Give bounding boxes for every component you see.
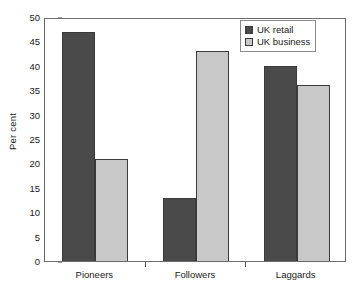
bar — [163, 198, 196, 261]
y-axis-tick-label: 25 — [29, 135, 40, 145]
x-axis-labels: PioneersFollowersLaggards — [44, 270, 346, 286]
legend-item-label: UK retail — [257, 25, 293, 35]
legend-item: UK retail — [245, 24, 310, 36]
x-axis-tick-label: Pioneers — [76, 270, 114, 280]
y-axis-tick-label: 20 — [29, 160, 40, 170]
y-axis-tick-label: 35 — [29, 86, 40, 96]
y-axis-tick-label: 40 — [29, 62, 40, 72]
y-axis-tick-label: 10 — [29, 208, 40, 218]
y-axis-tick-label: 15 — [29, 184, 40, 194]
y-axis-tick-label: 5 — [35, 233, 40, 243]
bar-group — [45, 19, 146, 261]
x-axis-tick-mark — [245, 262, 246, 267]
bar — [62, 32, 95, 261]
y-axis-tick-label: 30 — [29, 111, 40, 121]
bar — [297, 85, 330, 261]
bar-group — [246, 19, 347, 261]
x-axis-tick-mark — [145, 262, 146, 267]
y-axis-ticks: 05101520253035404550 — [18, 18, 40, 262]
y-axis-tick-label: 0 — [35, 257, 40, 267]
chart-legend: UK retail UK business — [240, 20, 316, 52]
y-axis-title-text: Per cent — [7, 113, 18, 150]
bar — [264, 66, 297, 261]
bar-group — [146, 19, 247, 261]
bar — [196, 51, 229, 261]
y-axis-tick-label: 45 — [29, 38, 40, 48]
legend-item: UK business — [245, 36, 310, 48]
bar-chart: Per cent 05101520253035404550 PioneersFo… — [0, 0, 353, 297]
x-axis-tick-label: Followers — [175, 270, 216, 280]
x-axis-tick-label: Laggards — [276, 270, 316, 280]
legend-swatch-dark-icon — [245, 26, 253, 34]
legend-item-label: UK business — [257, 37, 310, 47]
legend-swatch-light-icon — [245, 38, 253, 46]
bar — [95, 159, 128, 261]
y-axis-tick-label: 50 — [29, 13, 40, 23]
plot-area — [44, 18, 346, 262]
